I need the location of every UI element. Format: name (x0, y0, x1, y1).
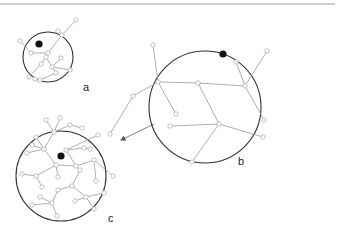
tree-node (234, 60, 238, 64)
tree-node (74, 18, 78, 22)
tree-node (38, 195, 42, 199)
tree-node (38, 78, 42, 82)
tree-node (70, 184, 74, 188)
tree-node (108, 132, 112, 136)
tree-node (33, 77, 37, 81)
tree-node (52, 130, 56, 134)
tree-node (92, 158, 96, 162)
tree-node (27, 75, 31, 79)
tree-node (92, 207, 96, 211)
tree-node (261, 135, 265, 139)
tree-node (50, 201, 54, 205)
tree-node (151, 43, 155, 47)
tree-edge (158, 82, 198, 83)
root-node (35, 40, 42, 47)
tree-node (20, 172, 24, 176)
tree-node (44, 55, 48, 59)
tree-node (243, 84, 247, 88)
tree-node (44, 118, 48, 122)
root-node (57, 152, 64, 159)
tree-node (56, 29, 60, 33)
tree-node (25, 151, 29, 155)
tree-edge (158, 82, 176, 114)
tree-node (217, 122, 221, 126)
tree-edge (56, 165, 76, 166)
tree-node (39, 62, 43, 66)
tree-node (40, 185, 44, 189)
tree-edge (192, 124, 219, 162)
tree-node (131, 94, 135, 98)
tree-node (55, 214, 59, 218)
tree-edge (153, 45, 158, 82)
tree-node (34, 135, 38, 139)
tree-node (68, 123, 72, 127)
panel-label: c (108, 212, 114, 224)
tree-node (78, 168, 82, 172)
tree-edge (76, 160, 94, 166)
tree-node (88, 147, 92, 151)
panel-label: b (238, 155, 244, 167)
tree-node (60, 33, 64, 37)
tree-node (73, 199, 77, 203)
panel-label: a (83, 81, 90, 93)
tree-edge (198, 83, 219, 124)
tree-edge (40, 73, 56, 80)
tree-node (34, 174, 38, 178)
tree-edge (44, 132, 54, 149)
tree-node (42, 147, 46, 151)
tree-node (18, 39, 22, 43)
tree-node (82, 146, 86, 150)
tree-node (102, 191, 106, 195)
tree-edge (72, 170, 80, 186)
tree-node (29, 51, 33, 55)
tree-node (56, 188, 60, 192)
tree-node (196, 81, 200, 85)
tree-node (30, 143, 34, 147)
tree-edge (52, 67, 70, 70)
tree-edge (72, 186, 86, 197)
tree-node (68, 68, 72, 72)
tree-node (30, 203, 34, 207)
tree-node (168, 124, 172, 128)
tree-node (84, 195, 88, 199)
tree-node (174, 112, 178, 116)
tree-node (54, 163, 58, 167)
tree-edge (110, 96, 133, 134)
tree-node (64, 148, 68, 152)
tree-node (262, 118, 266, 122)
tree-node (80, 126, 84, 130)
tree-node (265, 49, 269, 53)
tree-panels: abc (16, 18, 269, 224)
tree-node (56, 175, 60, 179)
tree-edge (29, 64, 41, 77)
diagram-canvas: abc (0, 0, 339, 244)
tree-node (111, 174, 115, 178)
tree-edge (32, 203, 52, 205)
tree-edge (198, 83, 245, 86)
panel-c: c (16, 116, 115, 224)
boundary-circle (149, 51, 261, 163)
tree-edge (170, 124, 219, 126)
tree-node (156, 80, 160, 84)
tree-edge (44, 149, 56, 165)
tree-edge (236, 62, 245, 86)
tree-node (96, 133, 100, 137)
tree-edge (48, 35, 62, 53)
tree-edge (62, 20, 76, 35)
tree-node (50, 65, 54, 69)
tree-node (190, 160, 194, 164)
tree-edge (94, 160, 96, 181)
panel-b: b (108, 43, 269, 167)
tree-edge (133, 82, 158, 96)
tree-edge (27, 149, 44, 153)
tree-node (59, 56, 63, 60)
tree-node (94, 179, 98, 183)
tree-node (54, 71, 58, 75)
tree-node (58, 116, 62, 120)
tree-edge (245, 51, 267, 86)
panel-a: a (18, 18, 90, 93)
transition-arrow (121, 124, 154, 140)
root-node (219, 50, 226, 57)
tree-node (74, 164, 78, 168)
tree-edge (36, 165, 56, 176)
